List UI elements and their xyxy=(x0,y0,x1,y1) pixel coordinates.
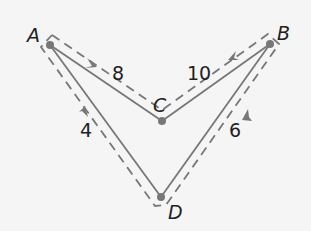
weight-d-b: 6 xyxy=(229,119,241,141)
arrow-icon-toward-a xyxy=(85,58,97,68)
edge-d-b xyxy=(161,44,270,197)
label-c: C xyxy=(153,94,167,116)
node-d xyxy=(157,193,165,201)
graph-diagram: A B C D 8 10 4 6 xyxy=(0,0,311,231)
weight-c-b: 10 xyxy=(187,62,211,84)
label-b: B xyxy=(277,22,290,44)
node-c xyxy=(158,117,166,125)
label-d: D xyxy=(168,201,183,223)
weight-a-d: 4 xyxy=(80,119,92,141)
arrow-icon-toward-b xyxy=(242,109,252,121)
label-a: A xyxy=(25,24,40,46)
edge-a-d xyxy=(50,45,161,197)
node-b xyxy=(266,40,274,48)
weight-a-c: 8 xyxy=(112,62,124,84)
node-a xyxy=(46,41,54,49)
edge-c-b xyxy=(162,44,270,121)
